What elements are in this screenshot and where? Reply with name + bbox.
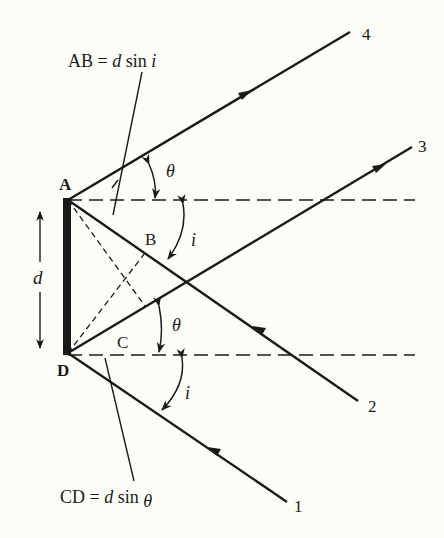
equation-CD-rhs: sin <box>113 487 143 507</box>
ray-3-arrow-icon <box>372 164 386 173</box>
ray-3 <box>68 147 412 353</box>
ray-2 <box>68 200 358 401</box>
dashed-A-to-C <box>68 200 145 306</box>
angle-i-bottom-arc <box>162 358 183 410</box>
equation-CD-lhs: CD = <box>60 487 104 507</box>
leader-CD <box>105 358 134 481</box>
equation-AB-lhs: AB = <box>68 51 112 71</box>
ray-label-4: 4 <box>362 25 371 44</box>
angle-label-theta-top: θ <box>166 161 175 181</box>
angle-theta-top-arc <box>149 164 155 198</box>
angle-label-i-bottom: i <box>185 383 190 403</box>
point-label-B: B <box>145 230 156 249</box>
angle-label-theta-bottom: θ <box>172 315 181 335</box>
tick-A <box>112 180 118 188</box>
ray-label-3: 3 <box>418 137 427 156</box>
equation-CD-angle: θ <box>143 491 152 511</box>
point-label-D: D <box>57 361 69 380</box>
angle-label-i-top: i <box>191 230 196 250</box>
diagram-canvas: A B C D 4 3 2 1 θ i θ i d AB = d sin i C… <box>0 0 444 538</box>
dimension-label-d: d <box>33 267 43 288</box>
ray-label-1: 1 <box>294 497 303 516</box>
leader-AB <box>113 72 142 215</box>
point-label-A: A <box>59 175 72 194</box>
equation-AB-angle: i <box>151 51 156 71</box>
equation-AB: AB = d sin i <box>68 51 156 71</box>
equation-AB-rhs: sin <box>121 51 151 71</box>
point-label-C: C <box>117 333 128 352</box>
equation-CD: CD = d sin θ <box>60 487 152 511</box>
angle-theta-bottom-arc <box>159 306 162 352</box>
angle-i-top-arc <box>168 204 184 259</box>
dashed-D-to-B <box>68 253 145 353</box>
ray-1 <box>68 353 287 502</box>
ray-label-2: 2 <box>368 397 377 416</box>
